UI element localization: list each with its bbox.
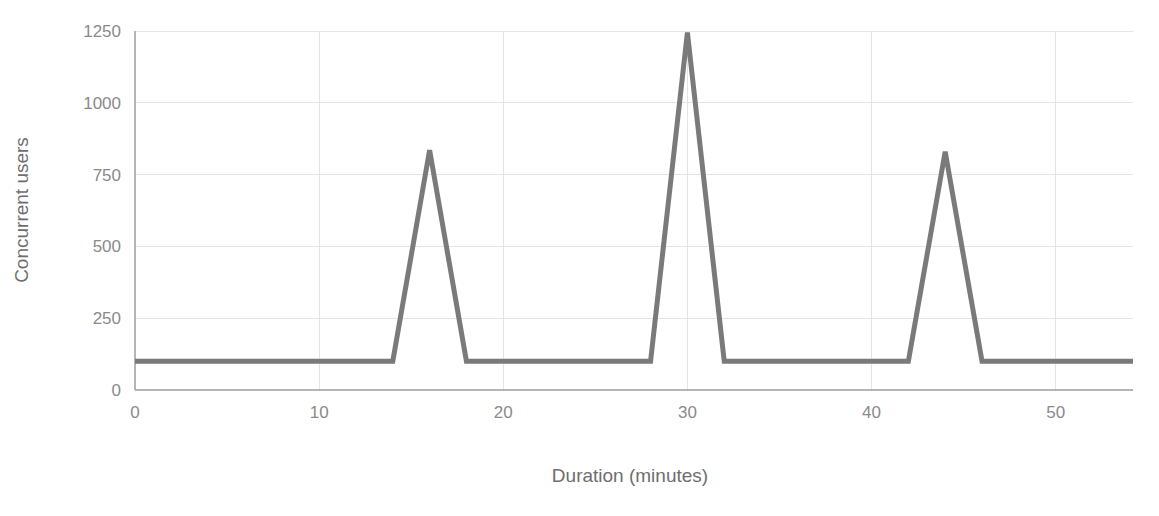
chart-figure: 025050075010001250 01020304050 Duration … xyxy=(0,0,1159,516)
x-tick-label: 0 xyxy=(130,403,139,422)
y-tick-labels-group: 025050075010001250 xyxy=(83,22,121,400)
data-series-group xyxy=(135,32,1133,361)
x-tick-labels-group: 01020304050 xyxy=(130,403,1065,422)
x-tick-label: 30 xyxy=(678,403,697,422)
line-chart: 025050075010001250 01020304050 Duration … xyxy=(0,0,1159,516)
x-axis-title: Duration (minutes) xyxy=(552,465,708,486)
gridlines-group xyxy=(135,31,1133,390)
x-tick-label: 10 xyxy=(310,403,329,422)
y-tick-label: 1000 xyxy=(83,94,121,113)
y-tick-label: 750 xyxy=(93,166,121,185)
y-tick-label: 250 xyxy=(93,309,121,328)
x-tick-label: 20 xyxy=(494,403,513,422)
x-tick-label: 50 xyxy=(1046,403,1065,422)
y-tick-label: 0 xyxy=(112,381,121,400)
y-tick-label: 500 xyxy=(93,237,121,256)
x-tick-label: 40 xyxy=(862,403,881,422)
y-tick-label: 1250 xyxy=(83,22,121,41)
y-axis-title: Concurrent users xyxy=(11,137,32,283)
axes-group xyxy=(135,31,1133,390)
series-line-0 xyxy=(135,32,1133,361)
